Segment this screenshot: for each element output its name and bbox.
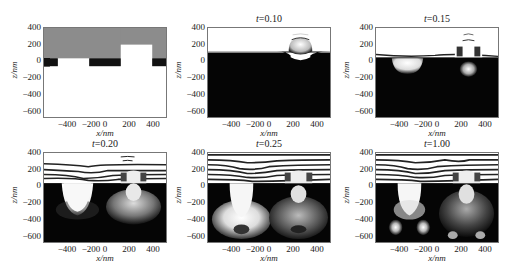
x-axis-label: x/nm (375, 253, 499, 263)
y-tick: −400 (345, 214, 373, 224)
y-tick: 400 (345, 147, 373, 157)
y-tick: −400 (13, 89, 41, 99)
field-heatmap (376, 28, 498, 117)
y-tick: −600 (13, 231, 41, 241)
y-tick: −200 (345, 72, 373, 82)
y-tick: 0 (345, 55, 373, 65)
field-heatmap (208, 28, 330, 117)
y-tick: 0 (345, 180, 373, 190)
y-tick: 0 (177, 55, 205, 65)
y-tick: 400 (177, 147, 205, 157)
x-axis-label: x/nm (375, 128, 499, 138)
y-tick: −400 (345, 89, 373, 99)
plot-area (207, 152, 331, 243)
y-tick: 0 (13, 180, 41, 190)
panel-title: t=0.10 (207, 13, 331, 25)
y-tick: 200 (13, 39, 41, 49)
plot-area (43, 27, 167, 118)
y-tick: 200 (177, 39, 205, 49)
y-tick: −400 (177, 89, 205, 99)
y-tick: 400 (13, 22, 41, 32)
panel-t015: t=0.15 z/nm 400 200 0 −200 −400 −600 −40… (337, 13, 505, 138)
y-tick: −200 (177, 197, 205, 207)
y-tick: 200 (13, 164, 41, 174)
y-tick: −200 (13, 72, 41, 82)
plot-area (375, 27, 499, 118)
panel-geometry: z/nm 400 200 0 −200 −400 −600 −400 −200 … (5, 13, 173, 138)
field-heatmap (376, 153, 498, 242)
y-tick: 200 (345, 164, 373, 174)
panel-t100: t=1.00 (337, 138, 505, 263)
y-tick: −200 (177, 72, 205, 82)
plot-area (43, 152, 167, 243)
y-tick: −600 (345, 231, 373, 241)
geometry-heatmap (44, 28, 166, 117)
y-tick: 200 (177, 164, 205, 174)
y-tick: −400 (177, 214, 205, 224)
panel-title: t=0.25 (207, 138, 331, 150)
y-tick: 0 (13, 55, 41, 65)
panel-title: t=1.00 (375, 138, 499, 150)
x-axis-label: x/nm (207, 128, 331, 138)
field-heatmap (44, 153, 166, 242)
panel-t025: t=0.25 (169, 138, 337, 263)
y-tick: 400 (345, 22, 373, 32)
y-tick: 0 (177, 180, 205, 190)
plot-area (375, 152, 499, 243)
y-tick: −400 (13, 214, 41, 224)
field-heatmap (208, 153, 330, 242)
panel-title: t=0.20 (43, 138, 167, 150)
panel-title: t=0.15 (375, 13, 499, 25)
y-tick: −200 (13, 197, 41, 207)
y-tick: −600 (13, 106, 41, 116)
y-tick: 400 (13, 147, 41, 157)
y-tick: 400 (177, 22, 205, 32)
x-axis-label: x/nm (43, 253, 167, 263)
y-tick: 200 (345, 39, 373, 49)
panel-t010: t=0.10 z/nm 400 200 0 −200 −400 −600 −40… (169, 13, 337, 138)
x-axis-label: x/nm (43, 128, 167, 138)
y-tick: −600 (345, 106, 373, 116)
y-tick: −600 (177, 106, 205, 116)
panel-t020: t=0.20 z/nm (5, 138, 173, 263)
y-tick: −200 (345, 197, 373, 207)
x-axis-label: x/nm (207, 253, 331, 263)
y-tick: −600 (177, 231, 205, 241)
plot-area (207, 27, 331, 118)
